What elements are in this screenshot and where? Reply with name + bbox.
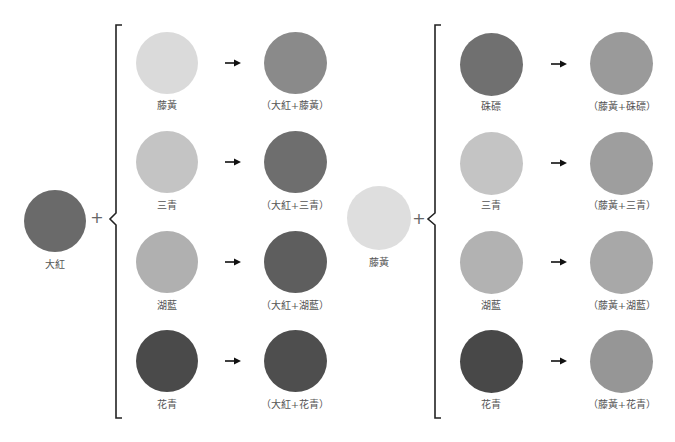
result-label: （大紅+湖藍） <box>261 300 329 312</box>
result-label: （藤黃+湖藍） <box>588 300 656 312</box>
arrow-right-icon <box>551 258 567 266</box>
result-swatch <box>264 131 327 193</box>
result-label: （藤黃+花青） <box>588 399 656 411</box>
input-label: 花青 <box>481 399 501 411</box>
arrow-right-icon <box>551 357 567 365</box>
input-swatch <box>136 131 198 193</box>
plus-sign: + <box>412 211 425 227</box>
arrow-right-icon <box>551 60 567 68</box>
input-label: 三青 <box>157 200 177 212</box>
result-label: （藤黃+硃磦） <box>588 101 656 113</box>
input-swatch <box>136 330 198 392</box>
input-label: 三青 <box>481 200 501 212</box>
input-swatch <box>460 132 523 195</box>
base-label: 藤黃 <box>369 257 389 269</box>
arrow-right-icon <box>225 357 241 365</box>
input-label: 湖藍 <box>481 300 501 312</box>
result-label: （藤黃+三青） <box>588 200 656 212</box>
base-swatch <box>347 186 411 250</box>
input-label: 藤黃 <box>157 100 177 112</box>
result-swatch <box>264 231 327 293</box>
result-label: （大紅+藤黃） <box>261 100 329 112</box>
base-label: 大紅 <box>45 259 65 271</box>
arrow-right-icon <box>551 159 567 167</box>
right-brace <box>428 25 441 418</box>
result-swatch <box>590 132 653 195</box>
plus-sign: + <box>90 210 103 226</box>
left-brace <box>110 25 122 418</box>
arrow-right-icon <box>225 158 241 166</box>
result-swatch <box>264 32 327 94</box>
result-swatch <box>264 330 327 392</box>
input-label: 花青 <box>157 399 177 411</box>
input-swatch <box>136 231 198 293</box>
input-swatch <box>460 33 523 96</box>
arrow-right-icon <box>225 59 241 67</box>
input-label: 硃磦 <box>481 101 501 113</box>
input-label: 湖藍 <box>157 300 177 312</box>
input-swatch <box>136 32 198 94</box>
base-swatch <box>24 190 86 252</box>
result-swatch <box>590 32 653 95</box>
result-label: （大紅+花青） <box>261 399 329 411</box>
input-swatch <box>460 231 523 294</box>
result-swatch <box>590 231 653 294</box>
input-swatch <box>460 330 523 393</box>
result-swatch <box>590 330 653 393</box>
arrow-right-icon <box>225 258 241 266</box>
result-label: （大紅+三青） <box>261 200 329 212</box>
